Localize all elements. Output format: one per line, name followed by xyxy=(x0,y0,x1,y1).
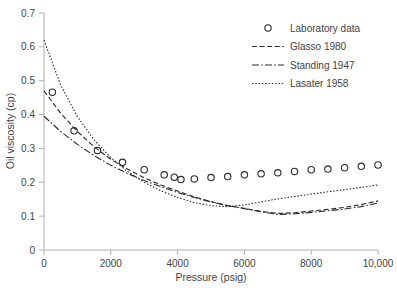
legend-label: Standing 1947 xyxy=(290,60,355,71)
x-tick-label: 10,000 xyxy=(363,258,394,269)
legend-label: Glasso 1980 xyxy=(290,41,347,52)
legend-label: Laboratory data xyxy=(290,23,360,34)
y-axis-title: Oil viscosity (cp) xyxy=(4,93,16,169)
y-tick-label: 0.1 xyxy=(21,211,35,222)
x-tick-label: 4000 xyxy=(166,258,189,269)
y-tick-label: 0.6 xyxy=(21,41,35,52)
chart-canvas: 00.10.20.30.40.50.60.7 02000400060008000… xyxy=(0,0,397,295)
y-tick-label: 0.7 xyxy=(21,8,35,19)
y-tick-label: 0 xyxy=(29,245,35,256)
y-tick-label: 0.3 xyxy=(21,143,35,154)
legend-label: Lasater 1958 xyxy=(290,78,349,89)
x-tick-label: 6000 xyxy=(233,258,256,269)
x-axis-title: Pressure (psig) xyxy=(175,271,246,283)
y-tick-label: 0.4 xyxy=(21,109,35,120)
oil-viscosity-chart: 00.10.20.30.40.50.60.7 02000400060008000… xyxy=(0,0,397,295)
x-tick-label: 0 xyxy=(41,258,47,269)
y-tick-label: 0.5 xyxy=(21,75,35,86)
x-tick-label: 8000 xyxy=(300,258,323,269)
x-tick-label: 2000 xyxy=(100,258,123,269)
y-tick-label: 0.2 xyxy=(21,177,35,188)
